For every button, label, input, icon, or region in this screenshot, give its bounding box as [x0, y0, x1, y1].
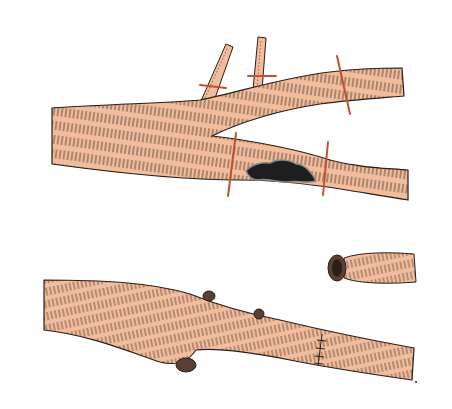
repaired-vessel [44, 280, 414, 380]
small-branch-2 [253, 37, 266, 90]
stump-1 [203, 291, 215, 301]
bottom-panel [44, 253, 417, 383]
dot-mark [415, 381, 417, 383]
small-branch-1 [201, 44, 233, 101]
stump-3 [176, 358, 196, 372]
vessel-illustration [0, 0, 452, 409]
stump-2 [254, 309, 264, 319]
top-panel [52, 37, 408, 200]
excised-segment [328, 253, 416, 283]
